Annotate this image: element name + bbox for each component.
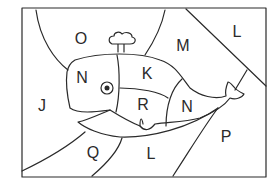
divider-r-n bbox=[166, 79, 182, 126]
region-label-l-bottom: L bbox=[147, 146, 156, 162]
divider-n-k bbox=[116, 55, 119, 112]
divider-m-l bbox=[186, 9, 266, 86]
region-label-j: J bbox=[38, 98, 46, 114]
whale-spout bbox=[109, 32, 135, 52]
divider-l-p bbox=[173, 108, 218, 176]
region-label-m: M bbox=[176, 38, 189, 54]
region-label-p: P bbox=[221, 129, 232, 145]
region-label-o: O bbox=[75, 31, 87, 47]
divider-o-m bbox=[145, 10, 165, 55]
region-label-l-top: L bbox=[233, 24, 242, 40]
divider-j-q bbox=[22, 132, 85, 171]
whale-flipper bbox=[140, 119, 143, 126]
region-label-r: R bbox=[137, 97, 149, 113]
region-label-k: K bbox=[142, 66, 153, 82]
divider-m-p bbox=[235, 70, 247, 90]
divider-o-j bbox=[36, 10, 68, 70]
region-label-n-tail: N bbox=[181, 99, 193, 115]
region-label-n-head: N bbox=[76, 70, 88, 86]
whale-eye-pupil bbox=[105, 86, 110, 91]
region-label-q: Q bbox=[87, 145, 99, 161]
